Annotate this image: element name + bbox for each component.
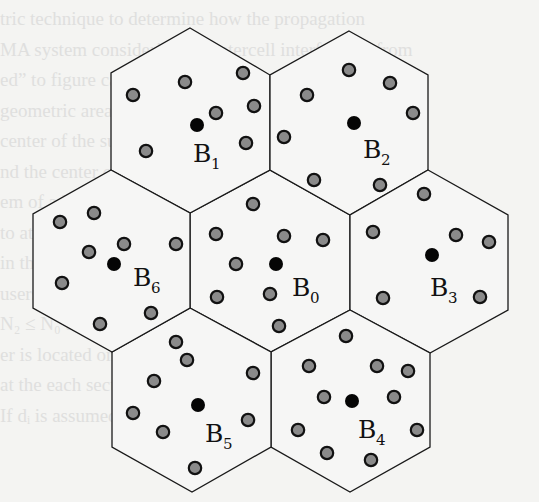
- mobile-user-icon: [118, 238, 130, 250]
- mobile-user-icon: [88, 207, 100, 219]
- base-station-icon: [190, 118, 204, 132]
- mobile-user-icon: [301, 89, 313, 101]
- base-station-icon: [191, 398, 205, 412]
- base-station-subscript: 2: [381, 151, 391, 169]
- mobile-user-icon: [418, 188, 430, 200]
- mobile-user-icon: [303, 360, 315, 372]
- mobile-user-icon: [248, 100, 260, 112]
- mobile-user-icon: [264, 288, 276, 300]
- mobile-user-icon: [374, 179, 386, 191]
- mobile-user-icon: [367, 226, 379, 238]
- mobile-user-icon: [483, 236, 495, 248]
- mobile-user-icon: [340, 330, 352, 342]
- mobile-user-icon: [237, 67, 249, 79]
- mobile-user-icon: [83, 246, 95, 258]
- mobile-user-icon: [242, 414, 254, 426]
- mobile-user-icon: [273, 320, 285, 332]
- mobile-user-icon: [240, 137, 252, 149]
- mobile-user-icon: [145, 307, 157, 319]
- mobile-user-icon: [292, 424, 304, 436]
- base-station-label: B: [358, 415, 376, 444]
- mobile-user-icon: [210, 107, 222, 119]
- mobile-user-icon: [317, 234, 329, 246]
- mobile-user-icon: [230, 258, 242, 270]
- mobile-user-icon: [247, 367, 259, 379]
- mobile-user-icon: [211, 291, 223, 303]
- mobile-user-icon: [127, 407, 139, 419]
- base-station-label: B: [363, 135, 381, 164]
- figure-page: tric technique to determine how the prop…: [0, 0, 539, 502]
- mobile-user-icon: [384, 77, 396, 89]
- mobile-user-icon: [318, 391, 330, 403]
- base-station-subscript: 6: [151, 279, 161, 297]
- mobile-user-icon: [474, 291, 486, 303]
- mobile-user-icon: [54, 216, 66, 228]
- mobile-user-icon: [247, 198, 259, 210]
- mobile-user-icon: [402, 365, 414, 377]
- base-station-label: B: [430, 273, 448, 302]
- base-station-label: B: [193, 139, 211, 168]
- mobile-user-icon: [56, 277, 68, 289]
- mobile-user-icon: [278, 131, 290, 143]
- mobile-user-icon: [157, 426, 169, 438]
- mobile-user-icon: [321, 447, 333, 459]
- mobile-user-icon: [343, 64, 355, 76]
- hexagonal-cell-diagram: B0B1B2B3B4B5B6: [0, 0, 539, 502]
- base-station-label: B: [292, 273, 310, 302]
- base-station-subscript: 3: [448, 289, 458, 307]
- base-station-icon: [107, 257, 121, 271]
- base-station-subscript: 5: [223, 435, 233, 453]
- mobile-user-icon: [181, 354, 193, 366]
- mobile-user-icon: [411, 424, 423, 436]
- base-station-subscript: 1: [211, 155, 221, 173]
- base-station-label: B: [205, 419, 223, 448]
- mobile-user-icon: [308, 174, 320, 186]
- mobile-user-icon: [278, 230, 290, 242]
- mobile-user-icon: [127, 89, 139, 101]
- mobile-user-icon: [210, 228, 222, 240]
- base-station-subscript: 4: [376, 431, 386, 449]
- mobile-user-icon: [377, 292, 389, 304]
- mobile-user-icon: [407, 107, 419, 119]
- mobile-user-icon: [365, 454, 377, 466]
- mobile-user-icon: [170, 238, 182, 250]
- base-station-label: B: [133, 263, 151, 292]
- base-station-icon: [269, 257, 283, 271]
- base-station-icon: [425, 248, 439, 262]
- mobile-user-icon: [148, 375, 160, 387]
- base-station-icon: [347, 116, 361, 130]
- mobile-user-icon: [94, 318, 106, 330]
- mobile-user-icon: [179, 76, 191, 88]
- mobile-user-icon: [140, 145, 152, 157]
- mobile-user-icon: [170, 336, 182, 348]
- base-station-subscript: 0: [310, 289, 320, 307]
- mobile-user-icon: [371, 360, 383, 372]
- mobile-user-icon: [189, 462, 201, 474]
- mobile-user-icon: [450, 229, 462, 241]
- mobile-user-icon: [388, 391, 400, 403]
- base-station-icon: [345, 394, 359, 408]
